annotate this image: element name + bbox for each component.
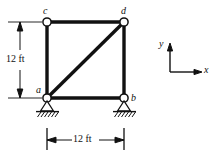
axis-label-x: x [204, 65, 208, 75]
horizontal-dimension-arrow-right [115, 137, 124, 143]
joint-label-d: d [121, 6, 126, 16]
joint-c-pin [43, 18, 51, 26]
member-ad-diagonal [47, 22, 124, 98]
support-a-triangle [41, 101, 54, 111]
vertical-dimension-arrow-down [17, 89, 23, 98]
coordinate-axes-group [167, 43, 202, 75]
joint-label-c: c [43, 6, 47, 16]
vertical-dimension-arrow-up [17, 22, 23, 31]
vertical-dimension-label: 12 ft [6, 54, 25, 64]
support-b-hatching [115, 112, 136, 117]
horizontal-dimension-label: 12 ft [73, 134, 92, 144]
support-a-group [36, 101, 59, 117]
axis-label-y: y [159, 39, 163, 49]
joint-label-b: b [131, 93, 136, 103]
truss-members-group [47, 22, 124, 98]
support-b-triangle [118, 101, 131, 111]
joint-d-pin [120, 18, 128, 26]
truss-drawing-canvas [0, 0, 219, 161]
axis-y-arrowhead [167, 43, 172, 51]
support-b-group [113, 101, 136, 117]
truss-figure: c d a b 12 ft 12 ft y x [0, 0, 219, 161]
joint-label-a: a [36, 85, 41, 95]
support-a-hatching [38, 112, 59, 117]
horizontal-dimension-arrow-left [47, 137, 56, 143]
axis-x-arrowhead [194, 69, 202, 74]
